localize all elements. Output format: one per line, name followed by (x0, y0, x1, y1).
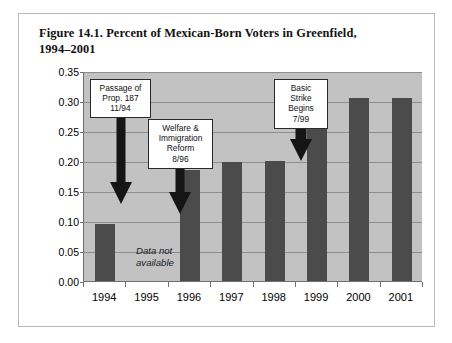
x-tickmark (83, 282, 84, 287)
x-tickmark (380, 282, 381, 287)
x-tickmark (295, 282, 296, 287)
annotation-welfare-immigration-reform: Welfare & Immigration Reform 8/96 (148, 119, 213, 169)
y-tick-label: 0.05 (49, 246, 79, 258)
x-tickmark (422, 282, 423, 287)
x-tickmark (253, 282, 254, 287)
bar-1994 (95, 224, 115, 281)
y-tick-label: 0.35 (49, 66, 79, 78)
data-not-available-note: Data not available (136, 245, 174, 268)
y-tick-label: 0.20 (49, 156, 79, 168)
bar-2001 (392, 98, 412, 281)
x-tickmark (337, 282, 338, 287)
annotation-basic-strike: Basic Strike Begins 7/99 (274, 79, 328, 129)
bar-2000 (349, 98, 369, 281)
bar-chart: 0.000.050.100.150.200.250.300.35 Passage… (46, 72, 422, 317)
y-tick-label: 0.30 (49, 96, 79, 108)
down-arrow-icon-welfare (169, 169, 191, 214)
down-arrow-icon-basic-strike (290, 129, 312, 161)
figure-frame: Figure 14.1. Percent of Mexican-Born Vot… (18, 13, 435, 327)
y-tick-label: 0.25 (49, 126, 79, 138)
y-tick-label: 0.15 (49, 186, 79, 198)
bar-1998 (265, 161, 285, 281)
x-tickmark (125, 282, 126, 287)
bar-1997 (222, 162, 242, 281)
y-tick-label: 0.10 (49, 216, 79, 228)
x-tick-label-2000: 2000 (336, 291, 380, 303)
x-tick-label-1996: 1996 (167, 291, 211, 303)
annotation-prop-187: Passage of Prop. 187 11/94 (90, 79, 151, 118)
down-arrow-icon-prop-187 (110, 118, 132, 204)
x-tick-label-1998: 1998 (252, 291, 296, 303)
y-tick-label: 0.00 (49, 276, 79, 288)
x-axis: 19941995199619971998199920002001 (83, 282, 422, 316)
x-tick-label-1995: 1995 (125, 291, 169, 303)
x-tick-label-1997: 1997 (209, 291, 253, 303)
y-axis: 0.000.050.100.150.200.250.300.35 (46, 72, 79, 282)
x-tickmark (210, 282, 211, 287)
x-tick-label-2001: 2001 (379, 291, 423, 303)
x-tick-label-1999: 1999 (294, 291, 338, 303)
plot-area: Passage of Prop. 187 11/94 Welfare & Imm… (83, 72, 422, 282)
x-tickmark (168, 282, 169, 287)
x-tick-label-1994: 1994 (82, 291, 126, 303)
figure-title: Figure 14.1. Percent of Mexican-Born Vot… (39, 26, 369, 57)
